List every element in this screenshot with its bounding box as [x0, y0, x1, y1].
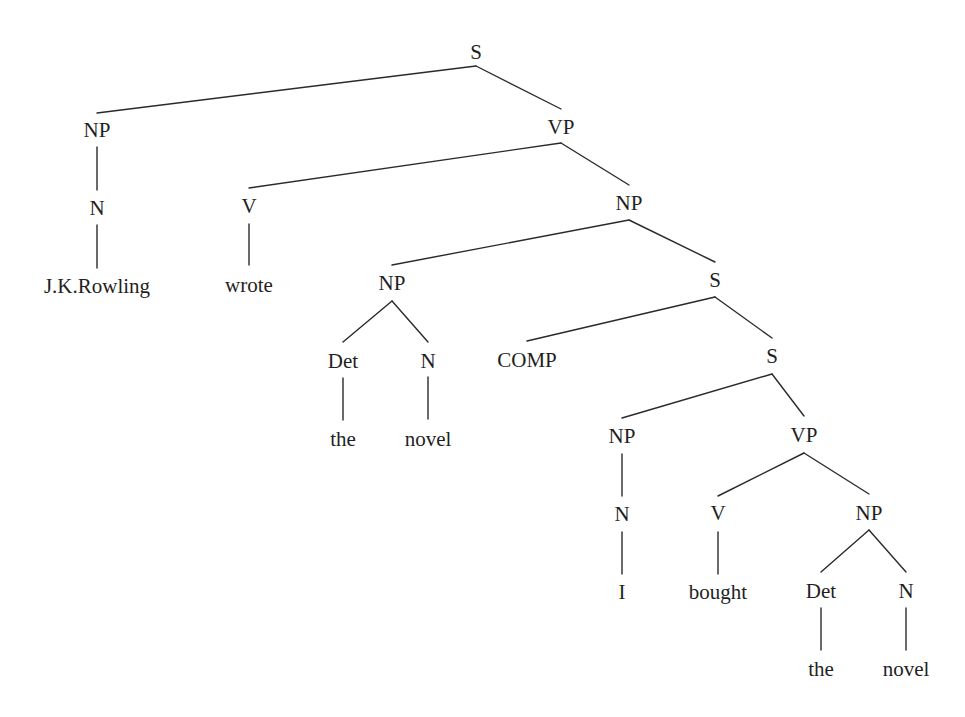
tree-edge	[629, 220, 715, 262]
tree-node-label: Det	[328, 349, 358, 373]
tree-node-label: COMP	[497, 348, 557, 372]
tree-node-label: novel	[405, 427, 452, 451]
tree-node-label: NP	[84, 118, 111, 142]
tree-node-label: S	[766, 344, 778, 368]
tree-edge	[561, 143, 629, 185]
tree-edge	[718, 453, 804, 496]
tree-nodes: SNPVPNJ.K.RowlingVwroteNPNPDettheNnovelS…	[44, 40, 930, 681]
tree-node-label: NP	[609, 424, 636, 448]
tree-node-label: wrote	[225, 273, 273, 297]
tree-node-label: the	[808, 657, 834, 681]
tree-node-label: S	[709, 268, 721, 292]
tree-node-label: N	[89, 196, 104, 220]
tree-edge	[392, 220, 629, 265]
tree-edge	[343, 301, 392, 342]
tree-node-label: V	[710, 501, 725, 525]
tree-node-label: NP	[379, 271, 406, 295]
tree-edge	[772, 374, 804, 416]
tree-node-label: I	[619, 580, 626, 604]
tree-edge	[804, 453, 869, 494]
tree-node-label: novel	[883, 657, 930, 681]
tree-edge	[715, 297, 772, 338]
tree-node-label: S	[470, 40, 482, 64]
tree-edge	[97, 66, 476, 113]
tree-edge	[392, 301, 428, 342]
tree-edge	[249, 143, 561, 188]
tree-edge	[476, 66, 561, 109]
tree-node-label: the	[330, 427, 356, 451]
tree-node-label: N	[420, 349, 435, 373]
tree-edge	[622, 374, 772, 418]
tree-node-label: VP	[791, 423, 818, 447]
tree-node-label: VP	[548, 115, 575, 139]
tree-node-label: N	[898, 579, 913, 603]
tree-node-label: NP	[616, 191, 643, 215]
tree-node-label: V	[241, 194, 256, 218]
tree-edge	[821, 530, 869, 572]
syntax-tree-diagram: SNPVPNJ.K.RowlingVwroteNPNPDettheNnovelS…	[0, 0, 965, 717]
tree-node-label: NP	[856, 501, 883, 525]
tree-node-label: bought	[689, 580, 748, 604]
tree-edge	[869, 530, 906, 572]
tree-node-label: J.K.Rowling	[44, 274, 151, 298]
tree-node-label: Det	[806, 579, 836, 603]
tree-edge	[527, 297, 715, 341]
tree-node-label: N	[614, 502, 629, 526]
